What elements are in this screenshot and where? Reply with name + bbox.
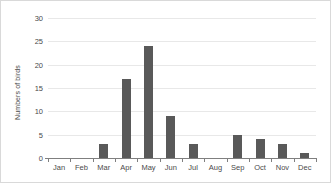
x-tick-label-jul: Jul [182,163,204,172]
bar-may [144,46,153,158]
x-tick-mark [93,158,94,162]
x-tick-mark [249,158,250,162]
plot-area: 051015202530 [48,18,316,158]
bar-mar [99,144,108,158]
bar-chart: Numbers of birds 051015202530 JanFebMarA… [0,0,331,183]
x-tick-label-jan: Jan [48,163,70,172]
y-tick-label: 5 [39,130,43,139]
x-tick-label-may: May [137,163,159,172]
bar-slot [115,18,137,158]
x-axis-ticks [48,158,316,162]
bar-slot [48,18,70,158]
x-tick-label-aug: Aug [204,163,226,172]
bar-oct [256,139,265,158]
x-tick-mark [294,158,295,162]
x-tick-label-jun: Jun [160,163,182,172]
x-tick-mark [48,158,49,162]
bar-slot [249,18,271,158]
bars-group [48,18,316,158]
x-tick-label-sep: Sep [227,163,249,172]
x-tick-label-mar: Mar [93,163,115,172]
bar-slot [182,18,204,158]
y-tick-label: 25 [35,37,43,46]
x-tick-mark [115,158,116,162]
x-tick-mark [316,158,317,162]
x-axis-labels: JanFebMarAprMayJunJulAugSepOctNovDec [48,163,316,172]
y-tick-label: 15 [35,84,43,93]
bar-slot [271,18,293,158]
bar-jun [166,116,175,158]
bar-jul [189,144,198,158]
y-tick-label: 0 [39,154,43,163]
x-tick-label-feb: Feb [70,163,92,172]
y-axis-title-text: Numbers of birds [14,65,21,120]
x-tick-mark [70,158,71,162]
bar-slot [160,18,182,158]
bar-sep [233,135,242,158]
y-axis-title: Numbers of birds [10,1,24,183]
x-tick-label-oct: Oct [249,163,271,172]
x-tick-mark [137,158,138,162]
y-tick-label: 20 [35,60,43,69]
y-tick-label: 10 [35,107,43,116]
x-tick-mark [271,158,272,162]
y-tick-label: 30 [35,14,43,23]
x-tick-mark [160,158,161,162]
bar-slot [294,18,316,158]
bar-slot [137,18,159,158]
bar-nov [278,144,287,158]
x-tick-mark [182,158,183,162]
x-tick-mark [227,158,228,162]
bar-slot [227,18,249,158]
bar-apr [122,79,131,158]
x-tick-label-dec: Dec [294,163,316,172]
x-tick-mark [204,158,205,162]
x-tick-label-nov: Nov [271,163,293,172]
bar-slot [204,18,226,158]
x-tick-label-apr: Apr [115,163,137,172]
bar-slot [70,18,92,158]
bar-slot [93,18,115,158]
